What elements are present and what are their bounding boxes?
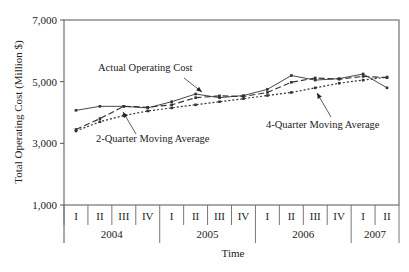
data-point-marker <box>170 100 173 103</box>
data-point-marker <box>266 94 269 97</box>
data-point-marker <box>386 76 389 79</box>
quarter-label: III <box>118 210 129 222</box>
x-axis-title: Time <box>222 247 245 259</box>
data-point-marker <box>99 105 102 108</box>
data-point-marker <box>99 117 102 120</box>
y-axis: 1,0003,0005,0007,000 <box>32 14 64 243</box>
quarter-label: II <box>288 210 296 222</box>
quarter-label: III <box>214 210 225 222</box>
data-point-marker <box>75 109 78 112</box>
data-point-marker <box>266 88 269 91</box>
data-point-marker <box>338 82 341 85</box>
data-point-marker <box>218 95 221 98</box>
annotation-label: Actual Operating Cost <box>98 62 193 73</box>
data-point-marker <box>314 77 317 80</box>
plot-area-border <box>64 20 399 205</box>
data-point-marker <box>194 93 197 96</box>
year-label: 2006 <box>292 228 315 240</box>
data-point-marker <box>242 97 245 100</box>
plot-frame <box>64 20 399 205</box>
quarter-label: II <box>383 210 391 222</box>
y-tick-label: 7,000 <box>32 14 57 26</box>
quarter-label: IV <box>238 210 250 222</box>
quarter-label: II <box>192 210 200 222</box>
line-chart: 1,0003,0005,0007,000 IIIIIIIVIIIIIIIVIII… <box>0 0 409 272</box>
data-point-marker <box>75 130 78 133</box>
quarter-label: IV <box>333 210 345 222</box>
data-point-marker <box>194 103 197 106</box>
y-tick-label: 5,000 <box>32 76 57 88</box>
data-point-marker <box>99 120 102 123</box>
data-point-marker <box>123 105 126 108</box>
data-point-marker <box>194 96 197 99</box>
data-point-marker <box>266 91 269 94</box>
quarter-label: II <box>96 210 104 222</box>
data-point-marker <box>218 100 221 103</box>
data-point-marker <box>338 78 341 81</box>
annotations: Actual Operating Cost2-Quarter Moving Av… <box>96 62 380 144</box>
quarter-label: IV <box>142 210 154 222</box>
data-point-marker <box>290 74 293 77</box>
quarter-label: III <box>310 210 321 222</box>
quarter-label: I <box>170 210 174 222</box>
year-label: 2004 <box>101 228 124 240</box>
year-label: 2005 <box>197 228 220 240</box>
annotation-label: 4-Quarter Moving Average <box>266 119 380 130</box>
arrowhead-icon <box>196 87 202 92</box>
data-point-marker <box>362 79 365 82</box>
data-point-marker <box>146 106 149 109</box>
arrowhead-icon <box>317 93 322 99</box>
annotation-label: 2-Quarter Moving Average <box>96 133 210 144</box>
data-point-marker <box>290 91 293 94</box>
quarter-label: I <box>266 210 270 222</box>
year-label: 2007 <box>364 228 387 240</box>
data-point-marker <box>290 81 293 84</box>
data-point-marker <box>314 87 317 90</box>
data-point-marker <box>170 103 173 106</box>
quarter-label: I <box>74 210 78 222</box>
data-point-marker <box>146 110 149 113</box>
data-point-marker <box>170 107 173 110</box>
y-axis-title: Total Operating Cost (Million $) <box>12 40 25 184</box>
data-point-marker <box>362 75 365 78</box>
data-point-marker <box>362 73 365 76</box>
x-axis: IIIIIIIVIIIIIIIVIIIIIIIVIII2004200520062… <box>64 205 399 243</box>
y-tick-label: 3,000 <box>32 137 57 149</box>
data-point-marker <box>386 87 389 90</box>
quarter-label: I <box>361 210 365 222</box>
y-tick-label: 1,000 <box>32 199 57 211</box>
